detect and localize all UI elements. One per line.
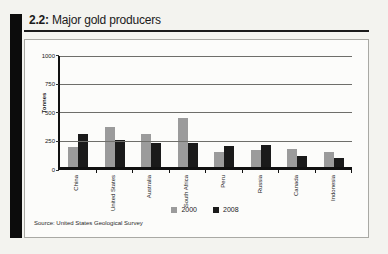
x-tick-mark xyxy=(96,170,97,173)
x-tick-label-canada: Canada xyxy=(293,175,300,196)
x-tick-label-south-africa: South Africa xyxy=(183,175,190,207)
y-tick-label-250: 250 xyxy=(31,138,55,145)
y-tick-label-500: 500 xyxy=(31,110,55,117)
bar-2008-peru xyxy=(224,146,234,167)
bar-2000-united-states xyxy=(105,127,115,167)
y-tick-mark-250 xyxy=(56,141,59,142)
x-axis-labels: ChinaUnited StatesAustraliaSouth AfricaP… xyxy=(58,175,352,221)
figure-number: 2.2: xyxy=(29,13,49,27)
x-label-slot: United States xyxy=(95,175,132,221)
gridline-250 xyxy=(60,141,352,142)
bar-2008-indonesia xyxy=(334,158,344,167)
x-tick-mark xyxy=(242,170,243,173)
y-tick-label-1000: 1000 xyxy=(31,53,55,60)
bar-2000-indonesia xyxy=(324,152,334,167)
x-tick-mark xyxy=(351,170,352,173)
plot-area xyxy=(58,56,352,170)
legend-label-2000: 2000 xyxy=(181,206,197,213)
chart-panel: Tonnes ChinaUnited StatesAustraliaSouth … xyxy=(24,39,369,238)
x-label-slot: Russia xyxy=(242,175,279,221)
x-tick-mark xyxy=(205,170,206,173)
y-tick-label-0: 0 xyxy=(31,167,55,174)
legend-item-2000: 2000 xyxy=(171,206,197,213)
y-tick-mark-500 xyxy=(56,112,59,113)
x-tick-label-peru: Peru xyxy=(220,175,227,188)
y-axis-title: Tonnes xyxy=(41,83,47,123)
figure-title-text: Major gold producers xyxy=(52,13,161,27)
x-label-slot: Peru xyxy=(205,175,242,221)
bar-2000-south-africa xyxy=(178,118,188,167)
source-note: Source: United States Geological Survey xyxy=(34,220,143,226)
legend: 20002008 xyxy=(58,206,352,213)
x-tick-mark xyxy=(169,170,170,173)
x-label-slot: China xyxy=(58,175,95,221)
y-tick-label-750: 750 xyxy=(31,81,55,88)
bar-2000-china xyxy=(68,147,78,167)
gridline-500 xyxy=(60,112,352,113)
x-label-slot: Canada xyxy=(279,175,316,221)
bar-2008-canada xyxy=(297,156,307,167)
x-tick-mark xyxy=(315,170,316,173)
x-tick-label-russia: Russia xyxy=(257,175,264,193)
x-tick-mark xyxy=(132,170,133,173)
bar-2008-australia xyxy=(151,143,161,168)
bar-2000-canada xyxy=(287,149,297,167)
x-tick-label-australia: Australia xyxy=(146,175,153,198)
gridline-750 xyxy=(60,84,352,85)
bar-2008-china xyxy=(78,134,88,167)
legend-swatch-2008 xyxy=(213,207,219,213)
x-label-slot: South Africa xyxy=(168,175,205,221)
x-tick-mark xyxy=(278,170,279,173)
bar-2000-russia xyxy=(251,150,261,167)
bar-2008-south-africa xyxy=(188,143,198,167)
figure-side-stripe xyxy=(10,14,22,238)
bar-2008-united-states xyxy=(115,140,125,167)
x-label-slot: Indonesia xyxy=(315,175,352,221)
bar-2000-peru xyxy=(214,152,224,167)
x-tick-label-indonesia: Indonesia xyxy=(330,175,337,201)
legend-item-2008: 2008 xyxy=(213,206,239,213)
y-tick-mark-0 xyxy=(56,170,59,171)
x-tick-label-china: China xyxy=(73,175,80,191)
y-tick-mark-1000 xyxy=(56,55,59,56)
title-divider xyxy=(24,30,369,32)
y-tick-mark-750 xyxy=(56,84,59,85)
figure-title: 2.2: Major gold producers xyxy=(29,13,161,27)
legend-swatch-2000 xyxy=(171,207,177,213)
gridline-1000 xyxy=(60,56,352,57)
bar-2000-australia xyxy=(141,134,151,167)
x-label-slot: Australia xyxy=(132,175,169,221)
bar-2008-russia xyxy=(261,145,271,167)
legend-label-2008: 2008 xyxy=(223,206,239,213)
